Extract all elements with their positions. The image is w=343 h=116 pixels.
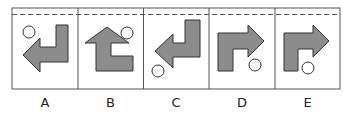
puzzle-figure: A B C D E	[0, 0, 343, 116]
option-label-a: A	[41, 95, 50, 110]
option-label-b: B	[106, 95, 115, 110]
circle-icon	[249, 59, 261, 71]
option-label-e: E	[303, 95, 311, 110]
option-label-c: C	[171, 95, 180, 110]
circle-icon	[121, 27, 133, 39]
option-label-d: D	[237, 95, 247, 110]
circle-icon	[302, 62, 314, 74]
circle-icon	[23, 26, 35, 38]
circle-icon	[152, 65, 164, 77]
